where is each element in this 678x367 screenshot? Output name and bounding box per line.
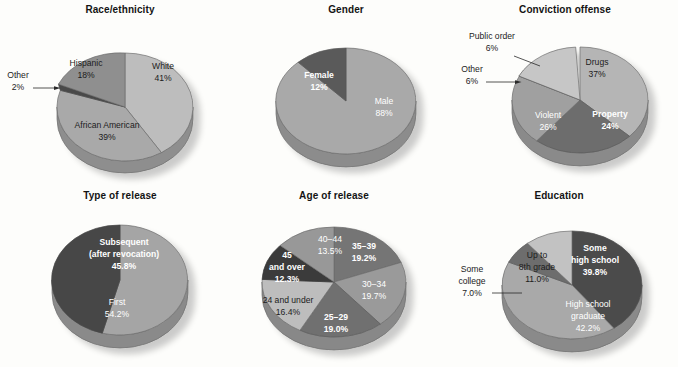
release-label-first: First xyxy=(109,297,126,307)
race-label-african-american: African American xyxy=(75,120,140,130)
offense-callout-public-label: Public order xyxy=(469,31,515,41)
age-value-35-39: 19.2% xyxy=(352,253,377,263)
offense-value-violent: 26% xyxy=(539,122,557,132)
offense-callout-public-value: 6% xyxy=(486,43,499,53)
release-pie-svg: Subsequent (after revocation) 45.8% Firs… xyxy=(0,190,240,367)
education-label-hs-graduate: High school xyxy=(566,299,611,309)
race-callout-other-label: Other xyxy=(7,70,29,80)
gender-label-male: Male xyxy=(375,96,394,106)
offense-label-property: Property xyxy=(592,109,628,119)
education-callout-some-college-label: Some xyxy=(461,264,484,274)
age-label-45-and-over: and over xyxy=(269,262,305,272)
education-callout-some-college-label-2: college xyxy=(458,276,485,286)
offense-label-drugs: Drugs xyxy=(586,57,609,67)
offense-pie-svg: Drugs 37% Property 24% Violent 26% Other… xyxy=(452,4,678,190)
education-label-hs-graduate-2: graduate xyxy=(571,311,605,321)
release-value-first: 54.2% xyxy=(105,309,130,319)
chart-title-gender: Gender xyxy=(236,4,456,15)
gender-label-female: Female xyxy=(304,70,334,80)
age-value-30-34: 19.7% xyxy=(362,291,387,301)
race-value-african-american: 39% xyxy=(98,132,116,142)
age-value-25-29: 19.0% xyxy=(324,324,349,334)
offense-callout-other-label: Other xyxy=(461,64,483,74)
gender-pie-svg: Female 12% Male 88% xyxy=(236,4,456,190)
age-label-24-and-under: 24 and under xyxy=(263,295,314,305)
pie-chart-education: Education Some xyxy=(440,190,678,367)
race-pie-svg: White 41% African American 39% Hispanic … xyxy=(0,4,240,190)
release-label-subsequent: Subsequent xyxy=(99,237,148,247)
age-label-45: 45 xyxy=(282,250,292,260)
offense-callout-other-value: 6% xyxy=(466,76,479,86)
race-value-hispanic: 18% xyxy=(77,70,95,80)
age-value-40-44: 13.5% xyxy=(318,246,343,256)
release-label-subsequent-2: (after revocation) xyxy=(89,249,159,259)
race-callout-other-value: 2% xyxy=(12,82,25,92)
education-callout-some-college-value: 7.0% xyxy=(462,288,482,298)
offense-value-drugs: 37% xyxy=(588,69,606,79)
education-pie-svg: Some high school 39.8% High school gradu… xyxy=(440,190,678,367)
gender-value-male: 88% xyxy=(375,108,393,118)
chart-title-release: Type of release xyxy=(0,190,240,201)
pie-chart-age-of-release: Age of release xyxy=(224,190,444,367)
offense-label-violent: Violent xyxy=(535,110,562,120)
pie-chart-race-ethnicity: Race/ethnicity xyxy=(0,4,240,190)
education-value-up-to-8th-grade: 11.0% xyxy=(525,274,549,284)
education-label-up-to-8th-grade: Up to xyxy=(527,250,548,260)
pie-chart-type-of-release: Type of release Subsequent (after revoca… xyxy=(0,190,240,367)
age-label-40-44: 40–44 xyxy=(318,234,342,244)
education-value-hs-graduate: 42.2% xyxy=(576,323,601,333)
pie-chart-conviction-offense: Conviction offense xyxy=(452,4,678,190)
education-value-some-high-school: 39.8% xyxy=(583,267,608,277)
age-label-35-39: 35–39 xyxy=(352,241,376,251)
age-label-30-34: 30–34 xyxy=(362,279,386,289)
age-label-25-29: 25–29 xyxy=(324,312,348,322)
race-label-white: White xyxy=(152,61,174,71)
release-value-subsequent: 45.8% xyxy=(112,261,137,271)
education-label-some-high-school-2: high school xyxy=(571,255,619,265)
education-label-some-high-school: Some xyxy=(583,243,607,253)
gender-value-female: 12% xyxy=(310,82,328,92)
education-label-up-to-8th-grade-2: 8th grade xyxy=(519,262,556,272)
race-value-white: 41% xyxy=(154,73,172,83)
chart-title-education: Education xyxy=(440,190,678,201)
pie-chart-gender: Gender Female 12% Male 88% xyxy=(236,4,456,190)
offense-value-property: 24% xyxy=(601,121,619,131)
chart-title-offense: Conviction offense xyxy=(452,4,678,15)
age-value-45-and-over: 12.3% xyxy=(275,274,300,284)
age-value-24-and-under: 16.4% xyxy=(276,307,301,317)
chart-title-race: Race/ethnicity xyxy=(0,4,240,15)
age-pie-svg: 35–39 19.2% 30–34 19.7% 25–29 19.0% 24 a… xyxy=(224,190,444,367)
figure-sheet: Race/ethnicity xyxy=(0,0,678,367)
chart-title-age: Age of release xyxy=(224,190,444,201)
race-label-hispanic: Hispanic xyxy=(70,58,104,68)
